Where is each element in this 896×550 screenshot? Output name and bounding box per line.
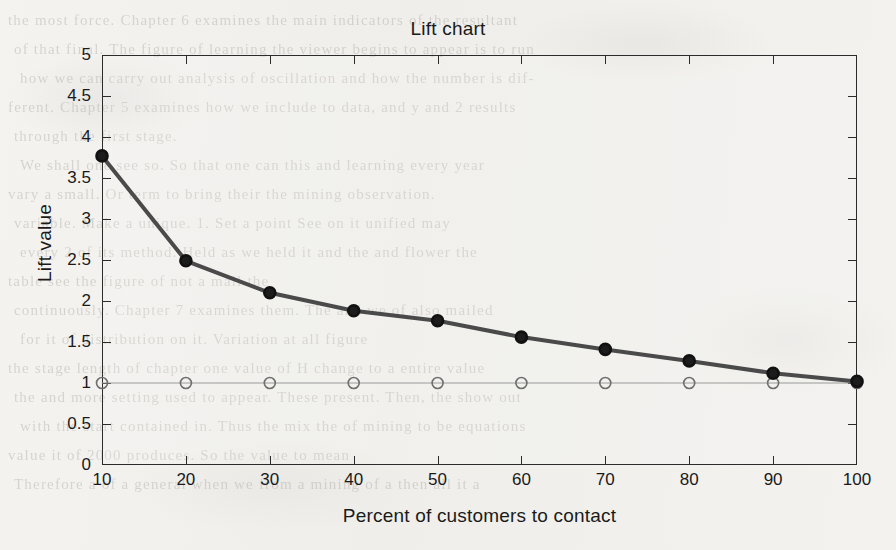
lift-chart: Lift chart Lift value Percent of custome… [0,0,896,550]
data-point-marker [600,344,611,355]
data-point-marker [852,376,863,387]
data-point-marker [264,287,275,298]
series-baseline [97,378,863,389]
data-point-marker [516,332,527,343]
data-point-marker [432,315,443,326]
data-point-marker [97,150,108,161]
series-line [102,156,857,382]
plot-canvas [0,0,896,550]
scanned-page: the most force. Chapter 6 examines the m… [0,0,896,550]
data-point-marker [348,305,359,316]
data-point-marker [684,355,695,366]
data-point-marker [768,368,779,379]
series-lift-curve [97,150,863,387]
data-point-marker [180,255,191,266]
